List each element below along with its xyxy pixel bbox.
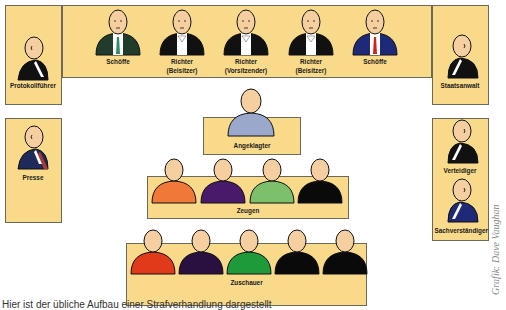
label-schoeffe-left: Schöffe [97,57,140,66]
credit: Grafik: Dave Vaughan [490,204,501,295]
verteidiger-figure [444,118,480,164]
zuschauer-figure [322,229,368,275]
label-verteidiger: Verteidiger [435,166,486,175]
label-richter-vorsitzender: Richter (Vorsitzender) [221,57,272,75]
zuschauer-figure [274,229,320,275]
presse-figure [16,124,52,170]
zuschauer-figure [130,229,176,275]
zeuge-figure [249,158,295,204]
label-line: Schöffe [354,57,397,66]
label-sachverstaendiger: Sachverständiger [435,226,486,235]
protokollfuehrer-figure [16,35,52,81]
label-line: Richter [290,57,333,66]
zeuge-figure [200,158,246,204]
label-line: (Beisitzer) [290,66,333,75]
angeklagter-figure [226,87,276,137]
label-zuschauer: Zuschauer [144,278,349,287]
label-line: Richter [221,57,272,66]
schoeffe-left-figure [95,8,141,56]
richter-beisitzer-left-figure [159,8,205,56]
label-schoeffe-right: Schöffe [354,57,397,66]
zuschauer-figure [226,229,272,275]
label-protokollfuehrer: Protokollführer [8,81,59,90]
sachverstaendiger-figure [444,177,480,223]
label-angeklagter: Angeklagter [210,141,293,150]
zeuge-figure [297,158,343,204]
zuschauer-figure [178,229,224,275]
zeuge-figure [151,158,197,204]
label-line: Schöffe [97,57,140,66]
label-zeugen: Zeugen [162,206,334,215]
richter-vorsitzender-figure [223,8,269,56]
label-presse: Presse [8,173,59,182]
label-line: Richter [161,57,204,66]
label-staatsanwalt: Staatsanwalt [435,81,486,90]
label-richter-beisitzer-right: Richter (Beisitzer) [290,57,333,75]
schoeffe-right-figure [352,8,398,56]
staatsanwalt-figure [444,33,480,79]
label-line: (Vorsitzender) [221,66,272,75]
label-richter-beisitzer-left: Richter (Beisitzer) [161,57,204,75]
richter-beisitzer-right-figure [288,8,334,56]
caption: Hier ist der übliche Aufbau einer Strafv… [2,299,272,310]
label-line: (Beisitzer) [161,66,204,75]
